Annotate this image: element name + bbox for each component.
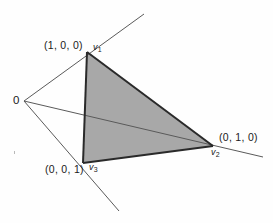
vertex3-name-text: v: [89, 162, 94, 172]
simplex-triangle-fill: [83, 52, 213, 163]
vertex1-subscript: 1: [98, 46, 102, 53]
diagram-canvas: [0, 0, 273, 223]
vertex2-subscript: 2: [216, 151, 220, 158]
origin-label: 0: [13, 95, 19, 107]
vertex2-coordinate-label: (0, 1, 0): [219, 132, 258, 143]
vertex1-name-label: v1: [93, 43, 101, 52]
vertex2-name-label: v2: [211, 148, 219, 157]
vertex3-coordinate-label: (0, 0, 1): [45, 164, 84, 175]
vertex1-name-text: v: [93, 42, 98, 52]
simplex-diagram: 0 (1, 0, 0) v1 (0, 1, 0) v2 (0, 0, 1) v3: [0, 0, 273, 223]
vertex2-name-text: v: [211, 147, 216, 157]
vertex3-name-label: v3: [89, 163, 97, 172]
vertex3-subscript: 3: [94, 166, 98, 173]
vertex1-coordinate-label: (1, 0, 0): [44, 40, 83, 51]
scan-artifact-speck: [14, 151, 15, 154]
